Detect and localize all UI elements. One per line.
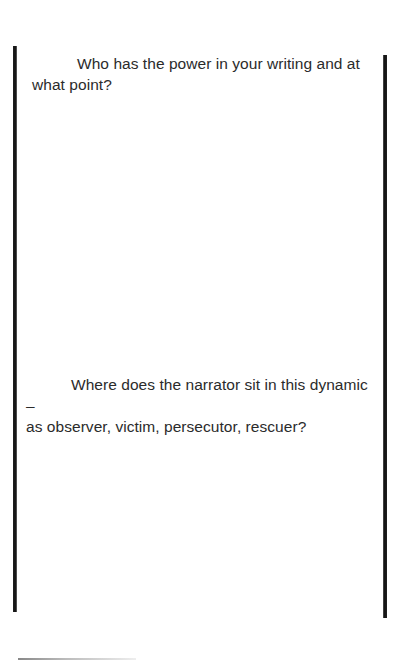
- prompt-1-line-1: Who has the power in your writing and at: [77, 55, 360, 72]
- worksheet-page: Who has the power in your writing and at…: [0, 0, 402, 661]
- left-margin-rule: [13, 46, 17, 612]
- prompt-1-line-2: what point?: [32, 76, 112, 93]
- footer-divider: [18, 658, 136, 660]
- prompt-2-line-2: as observer, victim, persecutor, rescuer…: [26, 418, 306, 435]
- prompt-narrator-question: Where does the narrator sit in this dyna…: [26, 374, 378, 437]
- prompt-2-line-1: Where does the narrator sit in this dyna…: [26, 376, 368, 414]
- prompt-power-question: Who has the power in your writing and at…: [32, 53, 377, 95]
- right-margin-rule: [383, 55, 387, 618]
